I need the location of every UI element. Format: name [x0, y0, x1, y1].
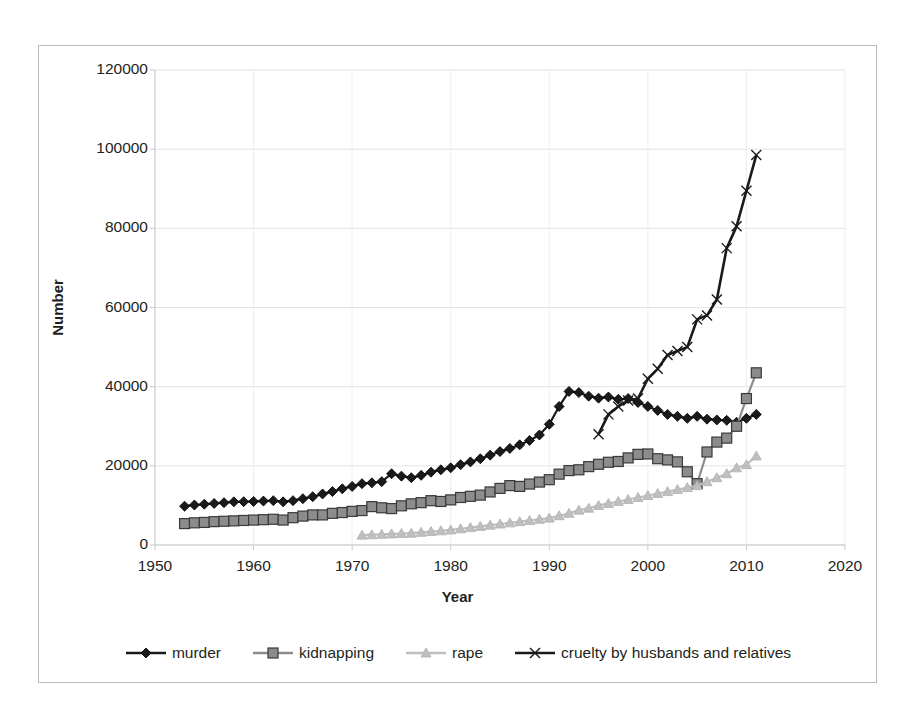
y-axis-title: Number [49, 228, 66, 388]
x-tick-label: 1990 [509, 557, 589, 575]
x-tick-label: 1970 [312, 557, 392, 575]
x-tick-label: 1950 [115, 557, 195, 575]
x-axis-title: Year [38, 588, 877, 605]
chart-page: 120000100000800006000040000200000 195019… [0, 0, 918, 720]
x-tick-label: 1980 [411, 557, 491, 575]
legend-item-cruelty-by-husbands-and-relatives[interactable]: cruelty by husbands and relatives [513, 645, 791, 661]
legend-item-murder[interactable]: murder [124, 645, 221, 661]
y-tick-label: 60000 [60, 298, 148, 316]
legend-label: murder [172, 645, 221, 661]
legend-label: rape [452, 645, 483, 661]
legend-marker-triangle-icon [404, 645, 448, 661]
x-tick-label: 1960 [214, 557, 294, 575]
series-rape [357, 451, 761, 539]
legend-label: cruelty by husbands and relatives [561, 645, 791, 661]
y-tick-label: 20000 [60, 456, 148, 474]
legend-marker-square-icon [251, 645, 295, 661]
legend-label: kidnapping [299, 645, 374, 661]
gridlines [155, 70, 845, 545]
legend-marker-x-icon [513, 645, 557, 661]
x-tick-label: 2000 [608, 557, 688, 575]
y-tick-label: 0 [60, 535, 148, 553]
series-kidnapping [180, 368, 762, 529]
x-tick-label: 2010 [706, 557, 786, 575]
y-axis-title-wrap: Number [44, 232, 70, 392]
legend-item-rape[interactable]: rape [404, 645, 483, 661]
legend-marker-diamond-icon [124, 645, 168, 661]
data-series-layer [180, 150, 762, 539]
x-tick-label: 2020 [805, 557, 885, 575]
legend-item-kidnapping[interactable]: kidnapping [251, 645, 374, 661]
y-tick-label: 100000 [60, 139, 148, 157]
line-chart-plot [0, 0, 918, 720]
axis-lines [150, 70, 845, 550]
y-tick-label: 80000 [60, 218, 148, 236]
y-tick-label: 120000 [60, 60, 148, 78]
y-tick-label: 40000 [60, 377, 148, 395]
chart-legend: murderkidnappingrapecruelty by husbands … [38, 636, 877, 670]
